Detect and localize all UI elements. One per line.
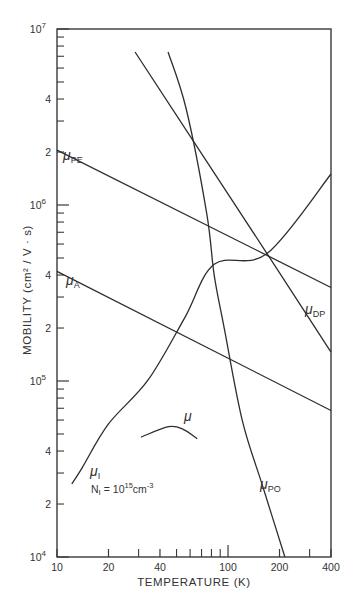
label-mu-total: μ — [183, 408, 192, 424]
mobility-vs-temperature-chart: 102040100200400 104241052410624107 μPEμA… — [0, 0, 357, 609]
curve-mu-total — [141, 426, 197, 438]
curve-mu-i — [72, 174, 331, 484]
curves — [57, 52, 331, 557]
x-tick-label: 100 — [219, 561, 237, 573]
y-tick-label: 106 — [30, 197, 47, 211]
x-tick-label: 40 — [154, 561, 166, 573]
y-tick-label: 4 — [45, 445, 51, 457]
y-tick-label: 2 — [45, 322, 51, 334]
y-tick-label: 104 — [30, 549, 47, 563]
y-axis-ticks: 104241052410624107 — [30, 21, 69, 563]
y-tick-label: 4 — [45, 269, 51, 281]
y-tick-label: 2 — [45, 498, 51, 510]
x-tick-label: 200 — [271, 561, 289, 573]
y-tick-label: 2 — [45, 146, 51, 158]
x-tick-label: 20 — [103, 561, 115, 573]
y-tick-label: 105 — [30, 373, 47, 387]
x-axis-ticks: 102040100200400 — [51, 545, 340, 573]
impurity-concentration-note: NI = 1015cm-3 — [91, 481, 154, 497]
y-axis-title: MOBILITY (cm² / V · s) — [21, 225, 33, 355]
label-mu-i: μI — [89, 463, 100, 481]
label-mu-a: μA — [65, 272, 80, 290]
y-tick-label: 4 — [45, 93, 51, 105]
curve-mu-a — [57, 271, 331, 410]
label-mu-pe: μPE — [62, 147, 83, 165]
x-tick-label: 10 — [51, 561, 63, 573]
curve-mu-pe — [57, 150, 331, 287]
label-mu-po: μPO — [259, 476, 281, 494]
x-tick-label: 400 — [322, 561, 340, 573]
x-axis-title: TEMPERATURE (K) — [137, 576, 251, 588]
curve-labels: μPEμAμDPμPOμIμNI = 1015cm-3 — [62, 147, 325, 497]
curve-mu-dp — [135, 52, 331, 352]
label-mu-dp: μDP — [304, 301, 325, 319]
y-tick-label: 107 — [30, 21, 47, 35]
